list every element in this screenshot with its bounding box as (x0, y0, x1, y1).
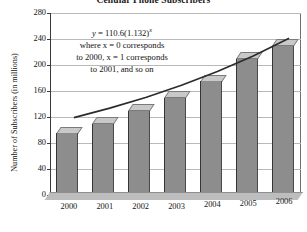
bar-front-face (200, 81, 222, 195)
chart-title: Cellular Phone Subscribers (0, 0, 307, 5)
bar-front-face (92, 124, 114, 196)
bar (128, 111, 150, 196)
chart-figure: Cellular Phone Subscribers Number of Sub… (0, 0, 307, 232)
bar-front-face (164, 98, 186, 196)
annotation-line-1: y = 110.6(1.132)x (52, 26, 192, 39)
bar-front-face (128, 111, 150, 196)
x-tick-label: 2003 (160, 202, 194, 211)
y-tick-mark (47, 13, 51, 14)
annotation-line-4: to 2001, and so on (52, 63, 192, 75)
x-tick-label: 2005 (231, 199, 265, 208)
annotation-line-2: where x = 0 corresponds (52, 39, 192, 51)
bar (200, 81, 222, 195)
bar (92, 124, 114, 196)
y-tick-label: 240 (6, 35, 46, 43)
y-tick-mark (47, 169, 51, 170)
y-tick-label: 40 (6, 165, 46, 173)
y-tick-label: 120 (6, 113, 46, 121)
x-tick-label: 2000 (52, 202, 86, 211)
equation-annotation: y = 110.6(1.132)x where x = 0 correspond… (52, 26, 192, 76)
y-tick-label: 280 (6, 9, 46, 17)
bar (236, 59, 258, 196)
annotation-line-3: to 2000, x = 1 corresponds (52, 51, 192, 63)
y-tick-mark (47, 143, 51, 144)
y-tick-label: 200 (6, 61, 46, 69)
annotation-equation-body: = 110.6(1.132) (96, 28, 149, 38)
x-tick-label: 2006 (267, 197, 301, 206)
y-tick-mark (47, 39, 51, 40)
bar-front-face (272, 46, 294, 196)
y-tick-mark (47, 117, 51, 118)
y-tick-label: 80 (6, 139, 46, 147)
y-tick-mark (47, 91, 51, 92)
y-tick-mark (47, 65, 51, 66)
y-tick-label: 0 (6, 191, 46, 199)
x-tick-label: 2001 (88, 202, 122, 211)
bar-front-face (56, 133, 78, 195)
y-tick-label: 160 (6, 87, 46, 95)
bar (272, 46, 294, 196)
annotation-exponent: x (149, 26, 152, 33)
bar (164, 98, 186, 196)
x-tick-label: 2004 (195, 200, 229, 209)
x-tick-label: 2002 (124, 202, 158, 211)
bar-front-face (236, 59, 258, 196)
gridline (50, 13, 301, 14)
bar (56, 133, 78, 195)
